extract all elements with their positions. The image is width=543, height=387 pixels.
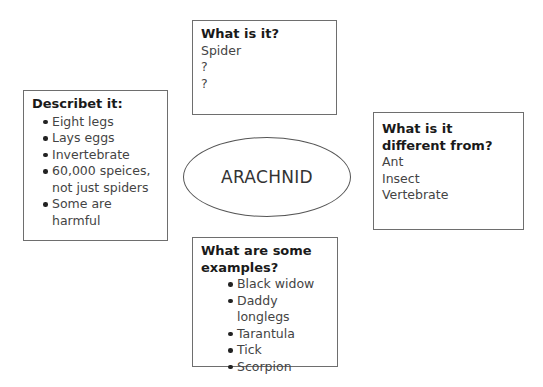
what-is-it-item: ? (201, 76, 328, 93)
different-from-item: Ant (382, 154, 515, 171)
different-from-box: What is it different from? Ant Insect Ve… (373, 112, 524, 230)
describe-it-item: Invertebrate (52, 147, 159, 164)
what-is-it-item: Spider (201, 43, 328, 60)
what-is-it-item: ? (201, 59, 328, 76)
what-is-it-box: What is it? Spider ? ? (192, 20, 337, 115)
describe-it-list: Eight legs Lays eggs Invertebrate 60,000… (32, 114, 159, 230)
examples-item: Black widow (237, 276, 329, 293)
describe-it-item: Lays eggs (52, 130, 159, 147)
describe-it-item: Some are harmful (52, 196, 159, 229)
describe-it-item: 60,000 speices, not just spiders (52, 163, 159, 196)
center-concept-label: ARACHNID (221, 167, 313, 187)
examples-item: Tarantula (237, 326, 329, 343)
examples-item: Tick (237, 342, 329, 359)
examples-box: What are some examples? Black widow Dadd… (192, 237, 338, 367)
center-concept-ellipse: ARACHNID (183, 137, 351, 217)
describe-it-item: Eight legs (52, 114, 159, 131)
examples-item: Scorpion (237, 359, 329, 376)
describe-it-box: Describet it: Eight legs Lays eggs Inver… (23, 90, 168, 241)
describe-it-title: Describet it: (32, 96, 159, 113)
examples-list: Black widow Daddy longlegs Tarantula Tic… (201, 276, 329, 375)
what-is-it-title: What is it? (201, 26, 328, 43)
different-from-item: Vertebrate (382, 187, 515, 204)
examples-title: What are some examples? (201, 243, 329, 276)
different-from-item: Insect (382, 171, 515, 188)
examples-item: Daddy longlegs (237, 293, 329, 326)
different-from-title: What is it different from? (382, 121, 515, 154)
